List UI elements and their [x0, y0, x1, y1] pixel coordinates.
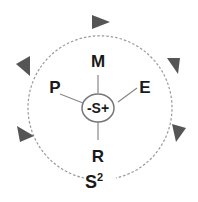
arrowhead-top-icon	[92, 15, 110, 29]
node-label-r: R	[92, 147, 104, 166]
arrowhead-lower-right-icon	[172, 124, 186, 142]
node-label-p: P	[49, 78, 60, 97]
center-label: -S+	[87, 100, 109, 116]
node-label-e: E	[139, 78, 150, 97]
arrowhead-upper-right-icon	[167, 58, 180, 74]
spoke-e	[118, 88, 137, 102]
arrowhead-lower-left-icon	[17, 126, 34, 142]
node-label-m: M	[91, 52, 105, 71]
outer-label: S2	[85, 171, 103, 192]
cycle-diagram: -S+ M E R P S2	[0, 0, 198, 202]
spoke-p	[60, 94, 83, 103]
arrowhead-upper-left-icon	[16, 56, 30, 76]
